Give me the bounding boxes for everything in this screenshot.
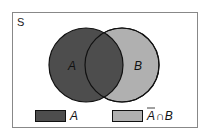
venn-diagram: S A B A A ∩B [0, 0, 205, 132]
set-a-label: A [67, 59, 76, 73]
universe-label: S [17, 16, 24, 28]
set-a-circle [49, 28, 123, 102]
set-b-label: B [134, 59, 142, 73]
legend-swatch-not-a-and-b [113, 111, 143, 122]
legend-label-not-a: A [146, 109, 155, 123]
legend-label-a: A [69, 109, 78, 123]
legend-swatch-a [36, 111, 66, 122]
legend-label-intersect-b: ∩B [156, 109, 173, 123]
